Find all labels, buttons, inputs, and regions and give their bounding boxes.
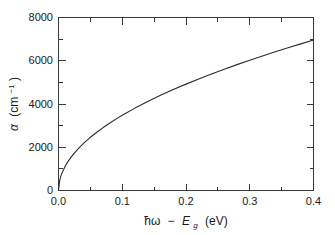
x-axis-title-sub-g: g: [193, 221, 198, 230]
x-axis-minor-ticks: [90, 18, 281, 191]
y-tick-label-3: 6000: [29, 54, 53, 66]
x-axis-major-ticks: [59, 18, 314, 191]
x-axis-title-minus: −: [168, 214, 175, 228]
y-axis-title: α (cm −1 ): [3, 77, 21, 131]
chart-figure: 0 2000 4000 6000 8000 0.0 0.1 0.2 0.3 0.…: [0, 0, 335, 235]
y-tick-label-4: 8000: [29, 11, 53, 23]
x-axis-title: ħω − E g (eV): [144, 214, 228, 231]
y-axis-title-exponent: −1: [7, 84, 16, 94]
x-tick-label-3: 0.3: [242, 195, 257, 207]
x-axis-tick-labels: 0.0 0.1 0.2 0.3 0.4: [51, 195, 321, 207]
x-tick-label-4: 0.4: [306, 195, 321, 207]
plot-frame: [59, 18, 314, 191]
y-tick-label-1: 2000: [29, 141, 53, 153]
x-tick-label-2: 0.2: [178, 195, 193, 207]
y-axis-minor-ticks: [59, 39, 314, 169]
absorption-curve: [59, 40, 314, 190]
x-tick-label-0: 0.0: [51, 195, 66, 207]
y-tick-label-2: 4000: [29, 98, 53, 110]
y-axis-title-alpha: α: [7, 123, 21, 131]
x-tick-label-1: 0.1: [115, 195, 130, 207]
y-axis-title-unit-close: ): [7, 77, 21, 81]
x-axis-title-hbar-omega: ħω: [144, 214, 160, 228]
y-axis-tick-labels: 0 2000 4000 6000 8000: [29, 11, 53, 196]
x-axis-title-E: E: [182, 214, 191, 228]
y-axis-major-ticks: [59, 18, 314, 191]
plot-area: 0 2000 4000 6000 8000 0.0 0.1 0.2 0.3 0.…: [0, 0, 335, 235]
x-axis-title-unit: (eV): [205, 214, 228, 228]
y-axis-title-unit: (cm: [7, 97, 21, 117]
